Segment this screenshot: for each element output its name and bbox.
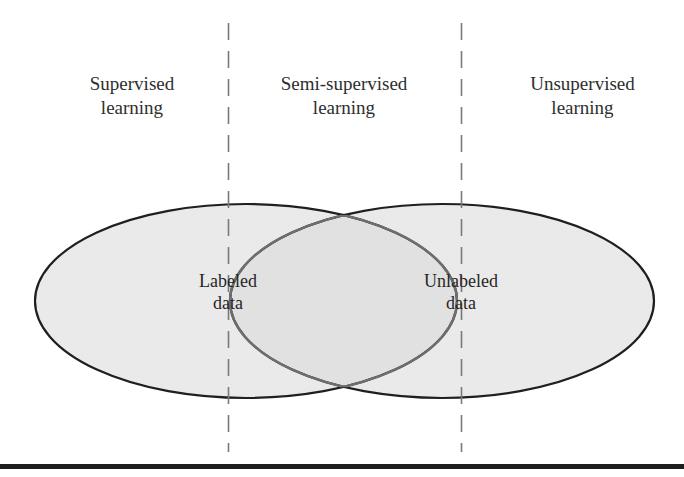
bottom-rule-divider bbox=[0, 464, 684, 469]
set-label-labeled-line1: Labeled bbox=[178, 270, 278, 292]
region-label-unsupervised-line2: learning bbox=[500, 96, 665, 120]
region-label-semi-supervised-line2: learning bbox=[254, 96, 434, 120]
region-label-supervised: Supervised learning bbox=[52, 72, 212, 120]
set-label-unlabeled-data: Unlabeled data bbox=[406, 270, 516, 314]
set-label-unlabeled-line2: data bbox=[406, 292, 516, 314]
region-label-supervised-line1: Supervised bbox=[52, 72, 212, 96]
ellipse-fills bbox=[35, 204, 654, 398]
set-label-labeled-line2: data bbox=[178, 292, 278, 314]
set-label-labeled-data: Labeled data bbox=[178, 270, 278, 314]
region-label-supervised-line2: learning bbox=[52, 96, 212, 120]
region-label-semi-supervised-line1: Semi-supervised bbox=[254, 72, 434, 96]
region-label-unsupervised-line1: Unsupervised bbox=[500, 72, 665, 96]
region-label-unsupervised: Unsupervised learning bbox=[500, 72, 665, 120]
region-label-semi-supervised: Semi-supervised learning bbox=[254, 72, 434, 120]
set-label-unlabeled-line1: Unlabeled bbox=[406, 270, 516, 292]
